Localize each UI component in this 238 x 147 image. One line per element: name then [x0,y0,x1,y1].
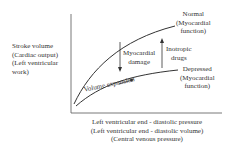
depressed-label: Depressed (Myocardial function) [180,65,215,91]
x-label-line: Left ventricular end - diastolic pressur… [72,118,222,127]
x-label-line: (Left ventricular end - diastolic volume… [72,127,222,136]
x-label-line: (Central venous pressure) [72,135,222,144]
up-arrowhead-icon [160,38,164,43]
damage-line: damage [123,58,155,67]
y-label-line: work) [12,68,58,77]
y-label-line: Stroke volume [12,42,58,51]
normal-label: Normal (Myocardial function) [176,10,211,36]
normal-line: function) [176,27,211,36]
depressed-line: Depressed [180,65,215,74]
normal-line: (Myocardial [176,19,211,28]
y-label-line: (Cardiac output) [12,51,58,60]
depressed-line: function) [180,82,215,91]
depressed-line: (Myocardial [180,74,215,83]
normal-line: Normal [176,10,211,19]
damage-line: Myocardial [123,49,155,58]
myocardial-damage-label: Myocardial damage [123,49,155,66]
down-arrowhead-icon [118,67,122,72]
inotropic-line: Inotropic [166,45,192,54]
y-label-line: (Left ventricular [12,59,58,68]
x-axis-label: Left ventricular end - diastolic pressur… [72,118,222,144]
inotropic-drugs-label: Inotropic drugs [166,45,192,62]
inotropic-line: drugs [166,54,192,63]
y-axis-label: Stroke volume (Cardiac output) (Left ven… [12,42,58,76]
